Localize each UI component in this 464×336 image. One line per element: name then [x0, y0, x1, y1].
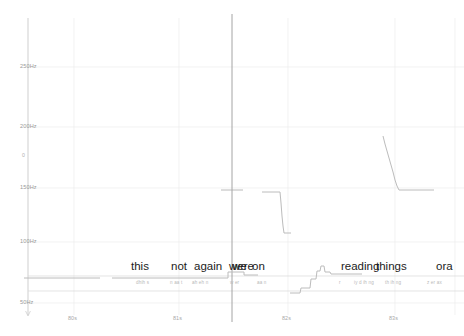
- zero-marker: 0: [22, 153, 25, 158]
- phone-label-this[interactable]: dhih s: [136, 281, 149, 286]
- word-label-this[interactable]: this: [131, 261, 149, 273]
- phone-label-r[interactable]: r: [339, 281, 341, 286]
- phone-label-were[interactable]: w er: [230, 281, 239, 286]
- ytick-label-250hz: 250Hz: [20, 64, 37, 70]
- xtick-label-82s: 82s: [282, 316, 291, 321]
- pitch-segment-3: [262, 192, 291, 233]
- xtick-label-80s: 80s: [68, 316, 77, 321]
- xtick-label-83s: 83s: [389, 316, 398, 321]
- phone-label-reading[interactable]: iy d ih ng: [354, 281, 374, 286]
- xtick-label-81s: 81s: [173, 316, 182, 321]
- word-label-things[interactable]: things: [376, 261, 407, 273]
- word-label-reading[interactable]: reading: [341, 261, 379, 273]
- word-label-ora[interactable]: ora: [436, 261, 453, 273]
- ytick-label-200hz: 200Hz: [20, 124, 37, 130]
- phone-label-on[interactable]: aa n: [257, 281, 267, 286]
- word-label-we[interactable]: we: [232, 261, 247, 273]
- pitch-segment-5: [383, 136, 434, 190]
- pitch-segment-2: [228, 272, 258, 278]
- phone-label-again[interactable]: ah eh n: [192, 281, 208, 286]
- word-label-again[interactable]: again: [194, 261, 222, 273]
- pitch-plot-canvas[interactable]: [0, 0, 464, 336]
- word-label-not[interactable]: not: [171, 261, 187, 273]
- ytick-label-100hz: 100Hz: [20, 239, 37, 245]
- phone-label-ora[interactable]: z er ax: [427, 281, 442, 286]
- ytick-label-50hz: 50Hz: [20, 300, 33, 306]
- pitch-analysis-window: 0 250Hz 200Hz 150Hz 100Hz 50Hz 80s 81s 8…: [0, 0, 464, 336]
- word-label-on[interactable]: on: [252, 261, 265, 273]
- phone-label-things[interactable]: th ih ng: [385, 281, 401, 286]
- ytick-label-150hz: 150Hz: [20, 185, 37, 191]
- phone-label-not[interactable]: n aa t: [170, 281, 182, 286]
